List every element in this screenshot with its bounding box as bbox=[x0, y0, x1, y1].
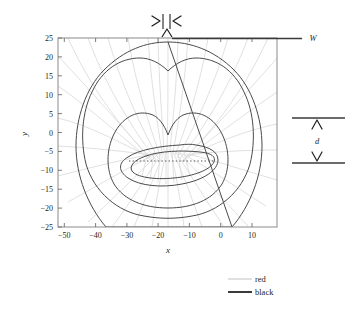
legend-label-black: black bbox=[255, 287, 274, 297]
w-label: W bbox=[309, 33, 317, 43]
y-tick-label: −25 bbox=[40, 223, 53, 232]
y-tick-label: −15 bbox=[40, 185, 53, 194]
x-tick-label: 0 bbox=[219, 231, 223, 240]
figure-container: 25 20 15 10 5 0 −5 −10 −15 −20 −25 −50 −… bbox=[0, 0, 350, 309]
legend: red black bbox=[228, 274, 274, 297]
x-tick-label: −40 bbox=[89, 231, 102, 240]
y-tick-label: 10 bbox=[45, 91, 53, 100]
d-dimension-annotation: d bbox=[292, 118, 345, 163]
y-tick-label: −5 bbox=[44, 147, 53, 156]
y-tick-label: 15 bbox=[45, 72, 53, 81]
d-label: d bbox=[315, 136, 320, 146]
y-tick-label: 25 bbox=[45, 34, 53, 43]
x-tick-label: −30 bbox=[121, 231, 134, 240]
y-tick-label: 0 bbox=[49, 129, 53, 138]
gap-marker bbox=[152, 14, 181, 37]
y-tick-label: −10 bbox=[40, 166, 53, 175]
x-tick-labels: −50 −40 −30 −20 −10 0 10 bbox=[58, 231, 256, 240]
x-tick-label: −50 bbox=[58, 231, 71, 240]
x-axis-title: x bbox=[165, 245, 170, 255]
x-tick-label: −20 bbox=[152, 231, 165, 240]
x-tick-label: −10 bbox=[183, 231, 196, 240]
y-tick-label: 5 bbox=[49, 110, 53, 119]
field-plot-svg: 25 20 15 10 5 0 −5 −10 −15 −20 −25 −50 −… bbox=[0, 0, 350, 309]
y-tick-label: −20 bbox=[40, 204, 53, 213]
legend-label-red: red bbox=[255, 274, 267, 284]
y-axis-title: y bbox=[19, 132, 29, 137]
x-tick-label: 10 bbox=[248, 231, 256, 240]
y-axis-ticks bbox=[58, 38, 62, 227]
y-tick-labels: 25 20 15 10 5 0 −5 −10 −15 −20 −25 bbox=[40, 34, 53, 232]
y-tick-label: 20 bbox=[45, 53, 53, 62]
